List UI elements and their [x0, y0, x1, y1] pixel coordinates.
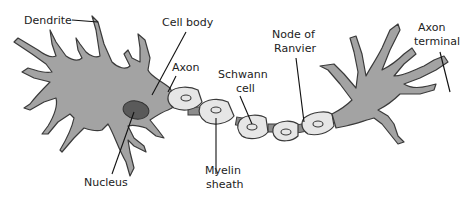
schwann-cell-label-2: cell: [236, 82, 255, 95]
node-of-ranvier-pointer: [296, 58, 304, 122]
myelin-sheath-label-1: Myelin: [205, 164, 241, 177]
neuron-diagram: Dendrite Cell body Axon Schwann cell Nod…: [0, 0, 467, 208]
axon-label: Axon: [172, 61, 199, 74]
cell-body-label: Cell body: [162, 16, 214, 29]
myelin-segment-3: [238, 115, 268, 138]
schwann-cell-label-1: Schwann: [218, 68, 268, 81]
myelin-segment-5: [302, 112, 334, 135]
myelin-segment-4: [273, 121, 298, 141]
myelin-segment-1: [168, 87, 202, 110]
node-of-ranvier-label-2: Ranvier: [274, 42, 316, 55]
neuron-illustration: Dendrite Cell body Axon Schwann cell Nod…: [0, 0, 467, 208]
cell-body-shape: [14, 16, 176, 176]
nucleus-label: Nucleus: [84, 176, 128, 189]
axon-terminal-label-2: terminal: [414, 35, 460, 48]
myelin-sheath-label-2: sheath: [206, 178, 244, 191]
node-of-ranvier-label-1: Node of: [272, 28, 316, 41]
dendrite-label: Dendrite: [24, 14, 72, 27]
axon-terminal-label-1: Axon: [418, 21, 445, 34]
myelin-segment-2: [199, 99, 234, 124]
